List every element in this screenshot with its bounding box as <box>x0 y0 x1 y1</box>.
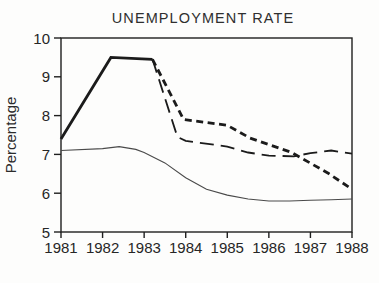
x-tick-label: 1986 <box>252 239 285 256</box>
series-bold-short-dash <box>153 59 353 189</box>
x-tick-label: 1982 <box>86 239 119 256</box>
x-tick-label: 1988 <box>335 239 368 256</box>
x-tick-label: 1984 <box>169 239 202 256</box>
y-tick-label: 6 <box>42 185 50 202</box>
unemployment-rate-figure: UNEMPLOYMENT RATE Percentage 5678910 198… <box>0 0 379 283</box>
x-tick-label: 1983 <box>127 239 160 256</box>
y-tick-label: 5 <box>42 224 50 241</box>
y-tick-label: 8 <box>42 107 50 124</box>
x-tick-label: 1981 <box>44 239 77 256</box>
x-tick-label: 1985 <box>211 239 244 256</box>
y-axis-label: Percentage <box>2 97 19 174</box>
chart-canvas: UNEMPLOYMENT RATE Percentage 5678910 198… <box>0 0 379 283</box>
chart-title: UNEMPLOYMENT RATE <box>112 10 295 26</box>
data-series-lines <box>61 57 352 201</box>
x-axis-ticks: 19811982198319841985198619871988 <box>44 232 368 256</box>
y-tick-label: 10 <box>33 30 50 47</box>
y-tick-label: 7 <box>42 146 50 163</box>
series-thin-solid <box>61 147 352 201</box>
x-tick-label: 1987 <box>294 239 327 256</box>
y-tick-label: 9 <box>42 68 50 85</box>
series-long-dash <box>153 59 353 156</box>
y-axis-ticks: 5678910 <box>33 30 61 241</box>
series-thick-solid <box>61 57 153 138</box>
